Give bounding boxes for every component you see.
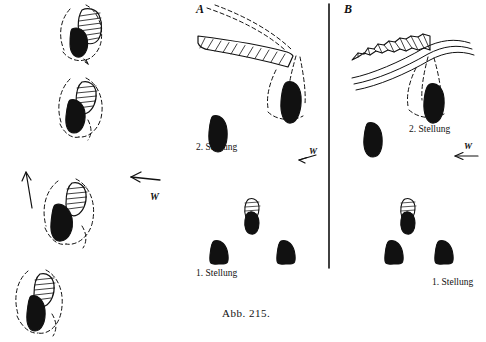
wind-label-panel-a: W [309,146,317,156]
panel-a-black-form-bottom-left [210,241,228,265]
panel-b-second-position-label: 2. Stellung [409,124,450,134]
panel-a-black-form-top [281,82,301,123]
panel-b-small-unit-mid [401,198,416,234]
panel-b-black-form-bottom-right [435,241,453,265]
arrow-wind-panel-b [455,153,478,160]
wind-label-panel-b: W [464,141,472,151]
panel-b-black-form-bottom-left [385,241,403,265]
panel-a-black-form-bottom-right [277,241,295,265]
panel-b-black-form-second-position [364,123,382,157]
arrow-up-left [22,172,32,208]
diagram-unit-left-3 [44,179,94,248]
panel-b-black-form-top [424,84,444,123]
diagram-unit-left-4 [16,270,62,336]
panel-a-hatched-ridge [198,36,293,67]
panel-a-first-position-label: 1. Stellung [196,268,237,278]
diagram-unit-left-2 [59,78,102,140]
wind-label-left: W [150,191,159,202]
panel-a-letter: A [196,2,204,17]
figure-caption: Abb. 215. [222,307,270,319]
figure-container: A B 2. Stellung 1. Stellung 2. Stellung … [0,0,486,342]
diagram-unit-left-1 [61,5,102,64]
panel-a-small-unit-mid [245,198,260,234]
panel-a-second-position-label: 2. Stellung [196,142,237,152]
figure-drawing [0,0,486,342]
arrow-wind-panel-a [299,155,316,163]
panel-b-first-position-label: 1. Stellung [432,277,473,287]
panel-b-letter: B [344,2,352,17]
arrow-wind-left [131,172,160,182]
panel-b-hatched-ridge [352,34,430,60]
